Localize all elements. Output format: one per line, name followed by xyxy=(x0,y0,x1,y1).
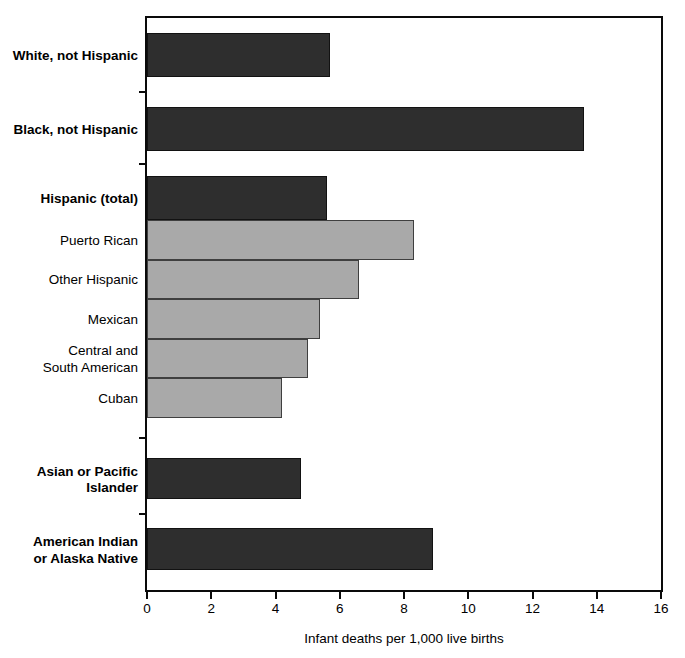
label-line: Black, not Hispanic xyxy=(0,122,138,139)
x-tick-label-16: 16 xyxy=(643,601,679,616)
infant-mortality-bar-chart: White, not HispanicBlack, not HispanicHi… xyxy=(0,0,685,658)
label-line: Asian or Pacific xyxy=(0,463,138,480)
label-puerto-rican: Puerto Rican xyxy=(0,233,138,250)
label-line: Islander xyxy=(0,480,138,497)
x-tick-label-8: 8 xyxy=(386,601,422,616)
x-tick-4 xyxy=(275,592,277,599)
x-tick-12 xyxy=(532,592,534,599)
y-axis-group-tick-2 xyxy=(139,437,146,439)
bar-white-not-hispanic xyxy=(147,33,330,77)
label-line: Other Hispanic xyxy=(0,272,138,289)
label-line: Hispanic (total) xyxy=(0,191,138,208)
label-line: Puerto Rican xyxy=(0,233,138,250)
y-axis-group-tick-0 xyxy=(139,91,146,93)
label-american-indian-or-alaska-native: American Indianor Alaska Native xyxy=(0,534,138,567)
x-tick-label-12: 12 xyxy=(515,601,551,616)
bar-mexican xyxy=(147,299,320,339)
x-tick-label-0: 0 xyxy=(129,601,165,616)
label-mexican: Mexican xyxy=(0,312,138,329)
x-tick-2 xyxy=(210,592,212,599)
x-tick-10 xyxy=(467,592,469,599)
bar-hispanic-total xyxy=(147,176,327,220)
x-tick-0 xyxy=(146,592,148,599)
x-tick-14 xyxy=(596,592,598,599)
label-asian-or-pacific-islander: Asian or PacificIslander xyxy=(0,463,138,496)
x-tick-8 xyxy=(403,592,405,599)
label-line: White, not Hispanic xyxy=(0,48,138,65)
label-other-hispanic: Other Hispanic xyxy=(0,272,138,289)
label-hispanic-total: Hispanic (total) xyxy=(0,191,138,208)
bar-black-not-hispanic xyxy=(147,107,584,151)
label-line: American Indian xyxy=(0,534,138,551)
x-tick-label-6: 6 xyxy=(322,601,358,616)
x-axis-title: Infant deaths per 1,000 live births xyxy=(147,631,661,646)
bar-asian-or-pacific-islander xyxy=(147,458,301,499)
x-tick-label-4: 4 xyxy=(258,601,294,616)
bar-puerto-rican xyxy=(147,220,414,260)
x-tick-label-14: 14 xyxy=(579,601,615,616)
label-line: Central and xyxy=(0,343,138,360)
x-tick-label-2: 2 xyxy=(193,601,229,616)
x-tick-16 xyxy=(660,592,662,599)
label-cuban: Cuban xyxy=(0,391,138,408)
label-black-not-hispanic: Black, not Hispanic xyxy=(0,122,138,139)
label-central-and-south-american: Central andSouth American xyxy=(0,343,138,376)
y-axis-group-tick-1 xyxy=(139,163,146,165)
x-tick-6 xyxy=(339,592,341,599)
label-white-not-hispanic: White, not Hispanic xyxy=(0,48,138,65)
bar-central-and-south-american xyxy=(147,339,308,379)
label-line: Cuban xyxy=(0,391,138,408)
bar-other-hispanic xyxy=(147,260,359,300)
y-axis-group-tick-3 xyxy=(139,513,146,515)
label-line: South American xyxy=(0,359,138,376)
bar-american-indian-or-alaska-native xyxy=(147,528,433,570)
bar-cuban xyxy=(147,378,282,418)
label-line: or Alaska Native xyxy=(0,550,138,567)
label-line: Mexican xyxy=(0,312,138,329)
x-tick-label-10: 10 xyxy=(450,601,486,616)
